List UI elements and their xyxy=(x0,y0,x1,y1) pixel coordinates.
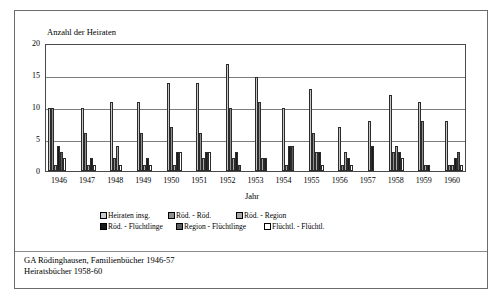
bar-1948-series-6 xyxy=(119,165,122,171)
x-axis-tick-1947: 1947 xyxy=(74,176,100,185)
bar-1953-series-4 xyxy=(264,158,267,171)
x-axis-tick-1950: 1950 xyxy=(158,176,184,185)
bar-group-1959 xyxy=(418,45,430,171)
bar-1951-series-6 xyxy=(208,152,211,171)
bar-group-1947 xyxy=(81,45,96,171)
bar-1959-series-4 xyxy=(427,165,430,171)
legend-label: Röd. - Flüchtlinge xyxy=(108,222,163,231)
bar-1960-series-6 xyxy=(460,165,463,171)
legend-item-r-d-fl-chtlinge[interactable]: Röd. - Flüchtlinge xyxy=(100,222,166,231)
bar-1954-series-1 xyxy=(282,108,285,171)
x-axis-tick-1954: 1954 xyxy=(271,176,297,185)
x-axis-tick-1948: 1948 xyxy=(102,176,128,185)
bar-1959-series-2 xyxy=(421,121,424,171)
x-axis-tick-1958: 1958 xyxy=(383,176,409,185)
legend-label: Region - Flüchtlinge xyxy=(184,222,246,231)
x-axis-tick-1953: 1953 xyxy=(242,176,268,185)
legend-item-heiraten-insg[interactable]: Heiraten insg. xyxy=(100,211,158,220)
bar-1957-series-4 xyxy=(371,146,374,171)
x-axis-tick-1949: 1949 xyxy=(130,176,156,185)
bar-group-1957 xyxy=(368,45,374,171)
bar-group-1946 xyxy=(48,45,66,171)
plot-wrapper xyxy=(45,44,466,172)
legend-swatch-icon xyxy=(176,223,183,230)
y-axis-tick-15: 15 xyxy=(32,72,40,80)
x-axis-tick-1952: 1952 xyxy=(214,176,240,185)
legend-label: Heiraten insg. xyxy=(108,211,150,220)
source-note-line-1: GA Rödinghausen, Familienbücher 1946-57 xyxy=(24,255,175,266)
bar-group-1955 xyxy=(309,45,324,171)
x-axis-tick-1946: 1946 xyxy=(46,176,72,185)
bar-1958-series-6 xyxy=(401,158,404,171)
chart-legend: Heiraten insg.Röd. - Röd.Röd. - RegionRö… xyxy=(100,211,400,233)
legend-swatch-icon xyxy=(100,223,107,230)
bar-group-1948 xyxy=(110,45,122,171)
bar-group-1953 xyxy=(255,45,267,171)
legend-row-1: Heiraten insg.Röd. - Röd.Röd. - Region xyxy=(100,211,400,220)
x-axis-title: Jahr xyxy=(0,191,504,201)
source-note: GA Rödinghausen, Familienbücher 1946-57 … xyxy=(24,255,175,277)
y-axis-tick-5: 5 xyxy=(36,136,40,144)
bar-1949-series-6 xyxy=(149,165,152,171)
bar-1946-series-2 xyxy=(51,108,54,171)
legend-swatch-icon xyxy=(264,223,271,230)
x-axis-tick-1959: 1959 xyxy=(411,176,437,185)
legend-label: Röd. - Region xyxy=(244,211,286,220)
bar-group-1960 xyxy=(445,45,463,171)
bar-group-1950 xyxy=(167,45,182,171)
y-axis-title: Anzahl der Heiraten xyxy=(47,27,116,37)
bar-1947-series-6 xyxy=(93,165,96,171)
source-note-line-2: Heiratsbücher 1958-60 xyxy=(24,266,175,277)
legend-item-fl-chtl-fl-chtl[interactable]: Flüchtl. - Flüchtl. xyxy=(264,222,334,231)
bar-1956-series-6 xyxy=(350,165,353,171)
bar-group-1952 xyxy=(226,45,241,171)
legend-row-2: Röd. - FlüchtlingeRegion - FlüchtlingeFl… xyxy=(100,222,400,231)
y-axis: 05101520 xyxy=(14,38,44,178)
bar-1955-series-6 xyxy=(321,165,324,171)
legend-swatch-icon xyxy=(100,212,107,219)
legend-item-region-fl-chtlinge[interactable]: Region - Flüchtlinge xyxy=(176,222,254,231)
y-axis-tick-0: 0 xyxy=(36,168,40,176)
bar-1960-series-1 xyxy=(445,121,448,171)
bar-group-1954 xyxy=(282,45,294,171)
x-axis-tick-1955: 1955 xyxy=(299,176,325,185)
y-axis-tick-20: 20 xyxy=(32,40,40,48)
bar-group-1949 xyxy=(137,45,152,171)
legend-label: Röd. - Röd. xyxy=(176,211,211,220)
legend-item-r-d-region[interactable]: Röd. - Region xyxy=(236,211,306,220)
x-axis-tick-1957: 1957 xyxy=(355,176,381,185)
legend-swatch-icon xyxy=(236,212,243,219)
bar-group-1956 xyxy=(338,45,353,171)
bar-1952-series-5 xyxy=(238,165,241,171)
x-axis: 1946194719481949195019511952195319541955… xyxy=(46,176,465,185)
x-axis-tick-1951: 1951 xyxy=(186,176,212,185)
footer-divider xyxy=(15,251,487,252)
bar-1954-series-5 xyxy=(291,146,294,171)
bar-groups xyxy=(46,45,465,171)
legend-item-r-d-r-d[interactable]: Röd. - Röd. xyxy=(168,211,226,220)
x-axis-tick-1960: 1960 xyxy=(439,176,465,185)
y-axis-tick-10: 10 xyxy=(32,104,40,112)
x-axis-tick-1956: 1956 xyxy=(327,176,353,185)
legend-swatch-icon xyxy=(168,212,175,219)
legend-label: Flüchtl. - Flüchtl. xyxy=(272,222,325,231)
bar-group-1958 xyxy=(389,45,404,171)
chart-figure: Anzahl der Heiraten 05101520 19461947194… xyxy=(0,0,504,301)
bar-1950-series-6 xyxy=(179,152,182,171)
bar-group-1951 xyxy=(196,45,211,171)
bar-1946-series-6 xyxy=(63,158,66,171)
